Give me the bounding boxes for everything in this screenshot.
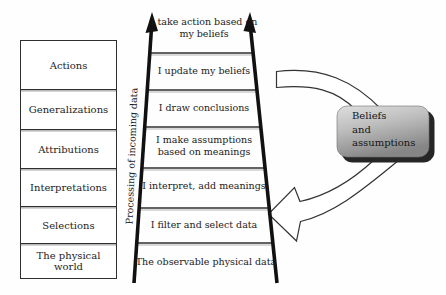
table-row: The physical world xyxy=(21,244,116,278)
world-stages-table: Actions Generalizations Attributions Int… xyxy=(20,40,117,279)
table-row: Actions xyxy=(21,41,116,90)
table-row: Attributions xyxy=(21,130,116,169)
arrow-to-beliefs xyxy=(277,70,383,111)
table-cell-label: Selections xyxy=(42,220,94,231)
rung-label: I interpret, add meanings xyxy=(139,180,269,192)
table-row: Selections xyxy=(21,207,116,244)
table-cell-label: Interpretations xyxy=(30,182,107,193)
beliefs-line: and xyxy=(352,123,428,137)
rung-label: I filter and select data xyxy=(139,219,269,231)
rung-label: The observable physical data xyxy=(131,256,281,268)
beliefs-line: assumptions xyxy=(352,136,428,150)
table-cell-label: The physical world xyxy=(21,250,116,272)
table-cell-label: Generalizations xyxy=(29,104,108,115)
rung-label: I draw conclusions xyxy=(146,102,262,114)
beliefs-box-text: Beliefs and assumptions xyxy=(352,109,428,150)
table-row: Interpretations xyxy=(21,169,116,207)
arrow-from-beliefs xyxy=(269,160,400,241)
table-row: Generalizations xyxy=(21,90,116,130)
ladder-of-inference-diagram: Actions Generalizations Attributions Int… xyxy=(0,0,446,295)
rung-label: I take action based on my beliefs xyxy=(148,16,260,41)
table-cell-label: Actions xyxy=(50,60,88,71)
rung-label: I make assumptions based on meanings xyxy=(146,134,262,159)
rung-label: I update my beliefs xyxy=(147,65,261,77)
beliefs-line: Beliefs xyxy=(352,109,428,123)
table-cell-label: Attributions xyxy=(38,144,99,155)
